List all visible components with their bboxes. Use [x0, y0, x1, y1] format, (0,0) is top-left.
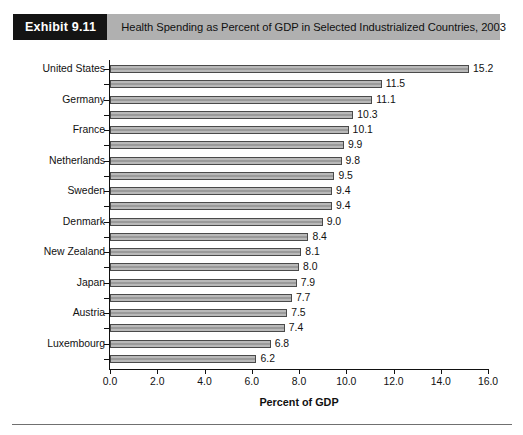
bar-row: 11.5 [0, 77, 523, 92]
bar-value-label: 10.3 [357, 108, 377, 121]
category-label: Netherlands [49, 155, 105, 167]
bar[interactable] [110, 279, 297, 287]
bar-row: France10.1 [0, 123, 523, 138]
x-axis-tick-label: 0.0 [103, 376, 117, 387]
bar-row: Denmark9.0 [0, 215, 523, 230]
bar-row: 7.7 [0, 291, 523, 306]
category-label: France [73, 124, 105, 136]
bar[interactable] [110, 263, 299, 271]
y-axis-tick [104, 237, 109, 238]
category-label: Japan [77, 277, 105, 289]
bar-value-label: 9.0 [327, 215, 341, 228]
x-axis-tick-label: 16.0 [478, 376, 498, 387]
bar[interactable] [110, 187, 332, 195]
bar[interactable] [110, 309, 287, 317]
bar[interactable] [110, 355, 256, 363]
x-axis-tick [346, 369, 347, 374]
x-axis-tick-label: 14.0 [431, 376, 451, 387]
x-axis-tick-label: 4.0 [197, 376, 211, 387]
y-axis-tick [104, 298, 109, 299]
bar-value-label: 7.7 [296, 291, 310, 304]
y-axis-tick [104, 115, 109, 116]
bar-value-label: 10.1 [353, 123, 373, 136]
bar-row: Austria7.5 [0, 306, 523, 321]
bar-value-label: 7.5 [291, 306, 305, 319]
bar-row: Netherlands9.8 [0, 154, 523, 169]
bar-value-label: 11.1 [376, 93, 395, 106]
bar[interactable] [110, 96, 372, 104]
bar-row: New Zealand8.1 [0, 245, 523, 260]
bar-value-label: 11.5 [386, 77, 405, 90]
category-label: Austria [73, 307, 105, 319]
x-axis-tick [110, 369, 111, 374]
x-axis-tick [252, 369, 253, 374]
bar-value-label: 8.1 [305, 245, 319, 258]
bar-row: Germany11.1 [0, 93, 523, 108]
bar[interactable] [110, 202, 332, 210]
x-axis-title: Percent of GDP [109, 396, 489, 408]
y-axis-tick [104, 267, 109, 268]
x-axis-tick-label: 10.0 [336, 376, 356, 387]
bar-value-label: 9.9 [348, 138, 362, 151]
bar-value-label: 15.2 [473, 62, 493, 75]
bar-row: 9.4 [0, 199, 523, 214]
bar-value-label: 9.4 [336, 199, 350, 212]
bar-row: 7.4 [0, 321, 523, 336]
page-rule [12, 424, 512, 425]
bar[interactable] [110, 172, 334, 180]
bar[interactable] [110, 294, 292, 302]
bar-row: 9.9 [0, 138, 523, 153]
bar-row: Luxembourg6.8 [0, 337, 523, 352]
bar[interactable] [110, 218, 323, 226]
x-axis-tick [205, 369, 206, 374]
x-axis-tick [394, 369, 395, 374]
bar-row: 8.0 [0, 260, 523, 275]
category-label: Luxembourg [47, 338, 105, 350]
bar-value-label: 9.4 [336, 184, 350, 197]
category-label: Sweden [67, 185, 105, 197]
y-axis-tick [104, 84, 109, 85]
bar-row: 9.5 [0, 169, 523, 184]
bar[interactable] [110, 65, 469, 73]
bar-value-label: 9.8 [346, 154, 360, 167]
y-axis-tick [104, 359, 109, 360]
bar-value-label: 7.4 [289, 321, 303, 334]
x-axis-tick [441, 369, 442, 374]
x-axis-tick [488, 369, 489, 374]
bar-row: Sweden9.4 [0, 184, 523, 199]
bar-row: United States15.2 [0, 62, 523, 77]
y-axis-tick [104, 206, 109, 207]
bar[interactable] [110, 111, 353, 119]
bar-value-label: 6.8 [275, 337, 289, 350]
bar-row: 10.3 [0, 108, 523, 123]
x-axis-tick-label: 12.0 [383, 376, 403, 387]
category-label: New Zealand [44, 246, 105, 258]
bar[interactable] [110, 141, 344, 149]
bar[interactable] [110, 340, 271, 348]
bar-value-label: 9.5 [338, 169, 352, 182]
bar[interactable] [110, 233, 308, 241]
bar[interactable] [110, 248, 301, 256]
x-axis-tick-label: 2.0 [150, 376, 164, 387]
bar-row: Japan7.9 [0, 276, 523, 291]
bar[interactable] [110, 126, 349, 134]
bar-row: 6.2 [0, 352, 523, 367]
x-axis-tick-label: 8.0 [292, 376, 306, 387]
y-axis-tick [104, 176, 109, 177]
bar-value-label: 8.4 [312, 230, 326, 243]
x-axis-tick [299, 369, 300, 374]
bar-value-label: 6.2 [260, 352, 274, 365]
category-label: Denmark [63, 216, 105, 228]
bar[interactable] [110, 324, 285, 332]
x-axis-tick-label: 6.0 [245, 376, 259, 387]
bar[interactable] [110, 157, 342, 165]
bar-value-label: 7.9 [301, 276, 315, 289]
bar-row: 8.4 [0, 230, 523, 245]
bar-chart: United States15.211.5Germany11.110.3Fran… [0, 0, 523, 435]
category-label: United States [43, 63, 105, 75]
x-axis-tick [157, 369, 158, 374]
bar-value-label: 8.0 [303, 260, 317, 273]
bar[interactable] [110, 80, 382, 88]
y-axis-tick [104, 328, 109, 329]
y-axis-tick [104, 145, 109, 146]
